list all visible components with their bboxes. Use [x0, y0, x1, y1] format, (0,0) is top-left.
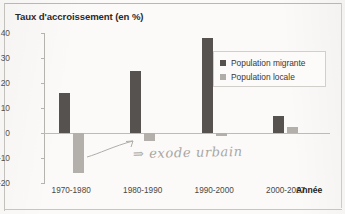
scan-frame-top — [4, 3, 342, 4]
bar-2000-2007-locale — [287, 127, 298, 133]
y-tick-label: -20 — [0, 178, 10, 188]
x-tick-label: 1990-2000 — [184, 186, 244, 195]
bar-1990-2000-locale — [216, 133, 227, 136]
legend: Population migrante Population locale — [213, 51, 326, 87]
bar-1970-1980-migrante — [59, 93, 70, 133]
chart-page: Taux d'accroissement (en %) 403020100-10… — [0, 0, 345, 214]
y-tick — [41, 58, 44, 59]
y-tick — [41, 33, 44, 34]
bar-1980-1990-migrante — [130, 71, 141, 134]
y-tick — [41, 158, 44, 159]
y-tick-label: 20 — [0, 78, 10, 88]
y-axis — [44, 33, 45, 184]
handwritten-annotation: ⇒ exode urbain — [133, 144, 243, 161]
y-tick-label: 40 — [0, 28, 10, 38]
y-tick — [41, 133, 44, 134]
x-tick-label: 1970-1980 — [41, 186, 101, 195]
scan-frame-bottom — [4, 209, 342, 210]
zero-baseline — [44, 133, 330, 134]
bar-1970-1980-locale — [73, 133, 84, 173]
bar-1990-2000-migrante — [202, 38, 213, 133]
legend-swatch-icon-locale — [220, 74, 226, 80]
y-tick-label: 0 — [0, 128, 10, 138]
y-tick — [41, 83, 44, 84]
chart-title: Taux d'accroissement (en %) — [15, 11, 143, 22]
legend-label-migrante: Population migrante — [231, 58, 306, 68]
bar-2000-2007-migrante — [273, 116, 284, 134]
bar-1980-1990-locale — [144, 133, 155, 141]
y-tick-label: -10 — [0, 153, 10, 163]
legend-item-locale: Population locale — [220, 70, 320, 84]
legend-label-locale: Population locale — [231, 72, 295, 82]
y-tick — [41, 108, 44, 109]
y-tick — [41, 183, 44, 184]
y-tick-label: 10 — [0, 103, 10, 113]
legend-item-migrante: Population migrante — [220, 56, 320, 70]
x-tick-label: 1980-1990 — [113, 186, 173, 195]
legend-swatch-icon-migrante — [220, 60, 226, 66]
y-tick-label: 30 — [0, 53, 10, 63]
x-axis-title: Année — [296, 185, 322, 195]
scan-frame-right — [341, 3, 342, 208]
